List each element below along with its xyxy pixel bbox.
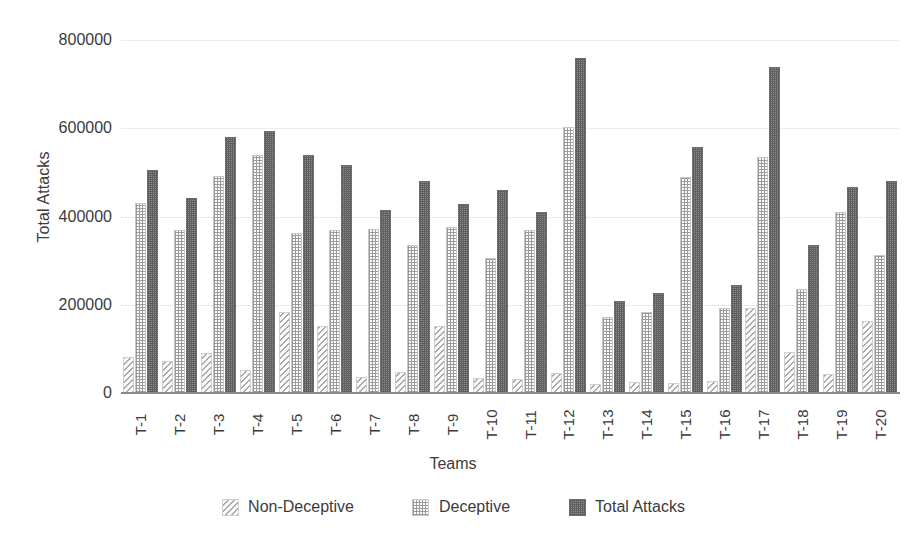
bar-deceptive bbox=[796, 289, 807, 393]
bar-total-attacks bbox=[186, 198, 197, 393]
bar-total-attacks bbox=[458, 204, 469, 393]
bar-total-attacks bbox=[303, 155, 314, 393]
x-tick-label: T-14 bbox=[638, 409, 655, 439]
x-tick: T-5 bbox=[277, 396, 316, 454]
x-tick-label: T-17 bbox=[754, 409, 771, 439]
bar-total-attacks bbox=[692, 147, 703, 393]
bar-group bbox=[744, 40, 783, 393]
x-tick-label: T-9 bbox=[443, 414, 460, 436]
bar-group bbox=[432, 40, 471, 393]
x-tick: T-11 bbox=[510, 396, 549, 454]
x-tick: T-9 bbox=[432, 396, 471, 454]
bar-group bbox=[666, 40, 705, 393]
x-tick: T-18 bbox=[782, 396, 821, 454]
x-tick-label: T-13 bbox=[599, 409, 616, 439]
x-tick: T-16 bbox=[705, 396, 744, 454]
bar-deceptive bbox=[757, 157, 768, 393]
bar-total-attacks bbox=[380, 210, 391, 393]
bar-non-deceptive bbox=[551, 373, 562, 393]
x-tick-label: T-16 bbox=[716, 409, 733, 439]
x-tick-label: T-5 bbox=[288, 414, 305, 436]
bar-deceptive bbox=[446, 227, 457, 393]
legend-item[interactable]: Non-Deceptive bbox=[221, 498, 354, 516]
bar-deceptive bbox=[174, 230, 185, 393]
bar-deceptive bbox=[213, 176, 224, 393]
bar-deceptive bbox=[602, 317, 613, 393]
bar-deceptive bbox=[680, 177, 691, 393]
bar-deceptive bbox=[719, 308, 730, 393]
x-tick-label: T-20 bbox=[871, 409, 888, 439]
bar-total-attacks bbox=[341, 165, 352, 393]
bar-groups bbox=[121, 40, 899, 393]
bar-non-deceptive bbox=[862, 321, 873, 393]
y-axis-ticks: 0200000400000600000800000 bbox=[28, 0, 112, 420]
x-tick-label: T-18 bbox=[793, 409, 810, 439]
bar-total-attacks bbox=[497, 190, 508, 393]
bar-group bbox=[354, 40, 393, 393]
bar-group bbox=[238, 40, 277, 393]
x-tick: T-15 bbox=[666, 396, 705, 454]
bar-non-deceptive bbox=[745, 308, 756, 393]
bar-total-attacks bbox=[808, 245, 819, 393]
x-tick-label: T-12 bbox=[560, 409, 577, 439]
x-tick-label: T-19 bbox=[832, 409, 849, 439]
bar-group bbox=[705, 40, 744, 393]
bar-non-deceptive bbox=[473, 378, 484, 393]
bar-non-deceptive bbox=[356, 377, 367, 393]
y-tick-label: 0 bbox=[28, 384, 112, 402]
x-tick: T-10 bbox=[471, 396, 510, 454]
bar-deceptive bbox=[563, 127, 574, 393]
x-tick: T-4 bbox=[238, 396, 277, 454]
x-tick: T-17 bbox=[744, 396, 783, 454]
bar-group bbox=[160, 40, 199, 393]
bar-total-attacks bbox=[847, 187, 858, 393]
bar-total-attacks bbox=[147, 170, 158, 394]
x-tick-label: T-3 bbox=[210, 414, 227, 436]
bar-non-deceptive bbox=[279, 312, 290, 393]
bar-deceptive bbox=[291, 233, 302, 393]
x-tick: T-6 bbox=[316, 396, 355, 454]
x-tick: T-14 bbox=[627, 396, 666, 454]
bar-non-deceptive bbox=[823, 374, 834, 393]
bar-group bbox=[316, 40, 355, 393]
bar-group bbox=[277, 40, 316, 393]
bar-total-attacks bbox=[419, 181, 430, 393]
bar-deceptive bbox=[135, 203, 146, 393]
bar-group bbox=[860, 40, 899, 393]
x-tick-label: T-7 bbox=[365, 414, 382, 436]
x-tick: T-3 bbox=[199, 396, 238, 454]
bar-non-deceptive bbox=[434, 326, 445, 393]
bar-deceptive bbox=[874, 255, 885, 393]
bar-total-attacks bbox=[886, 181, 897, 393]
x-tick: T-20 bbox=[860, 396, 899, 454]
x-axis-line bbox=[121, 392, 900, 394]
bar-group bbox=[821, 40, 860, 393]
bar-group bbox=[588, 40, 627, 393]
x-tick-label: T-2 bbox=[171, 414, 188, 436]
legend-swatch-icon bbox=[222, 499, 239, 516]
x-tick: T-8 bbox=[393, 396, 432, 454]
x-tick-label: T-4 bbox=[249, 414, 266, 436]
bar-total-attacks bbox=[769, 67, 780, 393]
legend-label: Deceptive bbox=[439, 498, 510, 516]
bar-deceptive bbox=[407, 245, 418, 393]
x-tick-label: T-11 bbox=[521, 410, 538, 439]
x-tick-label: T-10 bbox=[482, 409, 499, 439]
y-tick-label: 400000 bbox=[28, 208, 112, 226]
bar-deceptive bbox=[641, 312, 652, 393]
bar-deceptive bbox=[485, 258, 496, 393]
bar-total-attacks bbox=[653, 293, 664, 393]
bar-deceptive bbox=[524, 230, 535, 393]
bar-group bbox=[121, 40, 160, 393]
legend-item[interactable]: Deceptive bbox=[412, 498, 510, 516]
bar-non-deceptive bbox=[512, 379, 523, 393]
legend-item[interactable]: Total Attacks bbox=[568, 498, 685, 516]
bar-non-deceptive bbox=[317, 326, 328, 393]
bar-non-deceptive bbox=[123, 357, 134, 393]
bar-group bbox=[510, 40, 549, 393]
bar-group bbox=[199, 40, 238, 393]
x-axis-ticks: T-1T-2T-3T-4T-5T-6T-7T-8T-9T-10T-11T-12T… bbox=[121, 396, 899, 454]
bar-total-attacks bbox=[614, 301, 625, 393]
bar-non-deceptive bbox=[162, 361, 173, 393]
legend-label: Non-Deceptive bbox=[248, 498, 354, 516]
